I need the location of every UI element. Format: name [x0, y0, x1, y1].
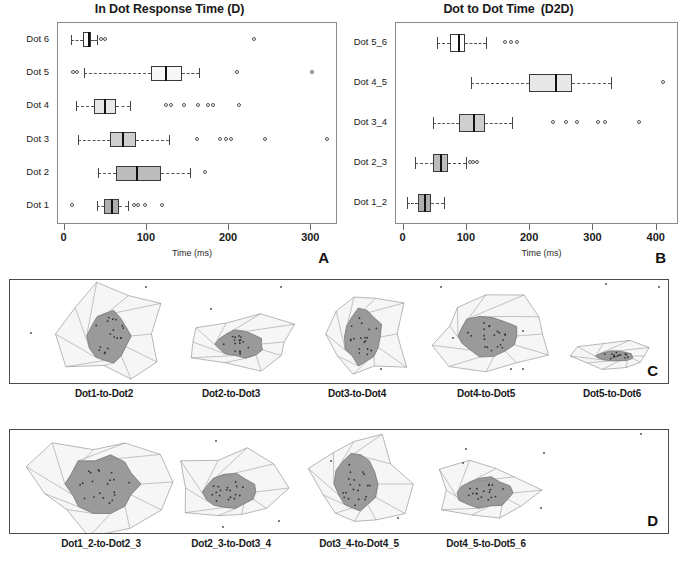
- data-point: [348, 478, 350, 480]
- outlier-point: [160, 203, 164, 207]
- data-point: [240, 336, 242, 338]
- median-line: [122, 132, 124, 147]
- data-point: [476, 493, 478, 495]
- data-point: [242, 341, 244, 343]
- outlier-point: [206, 103, 210, 107]
- data-point: [363, 473, 365, 475]
- data-point: [353, 489, 355, 491]
- shape-label: Dot2-to-Dot3: [202, 388, 260, 399]
- data-point: [354, 504, 356, 506]
- data-point: [216, 500, 218, 502]
- data-point: [239, 495, 241, 497]
- data-point: [483, 322, 485, 324]
- data-point: [219, 495, 221, 497]
- data-point: [215, 492, 217, 494]
- data-point: [365, 496, 367, 498]
- boxplot-row: In Dot Response Time (D) Dot 6Dot 5Dot 4…: [0, 0, 678, 272]
- data-point: [369, 485, 371, 487]
- panel-b-title-text: Dot to Dot Time: [443, 2, 534, 16]
- data-point: [495, 496, 497, 498]
- data-point: [342, 492, 344, 494]
- data-point: [228, 499, 230, 501]
- data-point: [213, 485, 215, 487]
- hull-cluster: [181, 448, 289, 516]
- data-point: [504, 334, 506, 336]
- whisker-low: [71, 40, 83, 41]
- whisker-low: [407, 203, 417, 204]
- outlier-point: [136, 203, 140, 207]
- shape-label: Dot4_5-to-Dot5_6: [446, 538, 526, 549]
- whisker-low: [415, 163, 433, 164]
- outlier-point: [596, 120, 600, 124]
- data-point: [498, 332, 500, 334]
- x-tick-label: 100: [457, 231, 475, 243]
- data-point: [109, 479, 111, 481]
- data-point: [365, 340, 367, 342]
- x-tick-label: 200: [219, 231, 237, 243]
- data-point: [616, 352, 618, 354]
- data-point: [368, 328, 370, 330]
- data-point: [351, 325, 353, 327]
- data-point: [497, 331, 499, 333]
- data-point: [348, 464, 350, 466]
- stray-point: [278, 520, 280, 522]
- data-point: [230, 496, 232, 498]
- y-tick-label: Dot 4: [26, 99, 49, 110]
- data-point: [497, 346, 499, 348]
- median-line: [88, 32, 90, 47]
- y-tick-label: Dot 3_4: [354, 116, 387, 127]
- data-point: [363, 341, 365, 343]
- outlier-point: [195, 137, 199, 141]
- data-point: [79, 484, 81, 486]
- data-point: [360, 337, 362, 339]
- data-point: [239, 351, 241, 353]
- data-point: [235, 481, 237, 483]
- stray-point: [330, 460, 332, 462]
- x-tick: [592, 224, 593, 230]
- data-point: [502, 488, 504, 490]
- data-point: [367, 348, 369, 350]
- data-point: [109, 333, 111, 335]
- shape-label: Dot3_4-to-Dot4_5: [319, 538, 399, 549]
- y-tick-label: Dot 1_2: [354, 196, 387, 207]
- data-point: [93, 496, 95, 498]
- data-point: [624, 353, 626, 355]
- data-point: [477, 498, 479, 500]
- outlier-point: [235, 70, 239, 74]
- panel-a-letter: A: [318, 249, 329, 266]
- data-point: [618, 354, 620, 356]
- x-tick-label: 100: [137, 231, 155, 243]
- whisker-high: [119, 206, 128, 207]
- data-point: [234, 498, 236, 500]
- panel-a-x-axis: Time (ms) 0100200300: [57, 224, 337, 254]
- data-point: [111, 499, 113, 501]
- data-point: [500, 344, 502, 346]
- outlier-point: [182, 103, 186, 107]
- data-point: [375, 328, 377, 330]
- outlier-point: [229, 137, 233, 141]
- outlier-point: [325, 137, 329, 141]
- x-tick-label: 0: [400, 231, 406, 243]
- stray-point: [640, 433, 642, 435]
- data-point: [486, 346, 488, 348]
- outlier-point: [475, 160, 479, 164]
- stray-point: [540, 507, 542, 509]
- stray-point: [465, 448, 467, 450]
- data-point: [489, 491, 491, 493]
- whisker-cap-low: [415, 157, 416, 169]
- stray-point: [543, 452, 545, 454]
- data-point: [113, 491, 115, 493]
- data-point: [239, 353, 241, 355]
- data-point: [350, 339, 352, 341]
- data-point: [483, 490, 485, 492]
- outlier-point: [509, 40, 513, 44]
- data-point: [227, 487, 229, 489]
- median-line: [440, 154, 442, 172]
- data-point: [104, 352, 106, 354]
- data-point: [358, 352, 360, 354]
- panel-c-labels: Dot1-to-Dot2Dot2-to-Dot3Dot3-to-Dot4Dot4…: [9, 388, 669, 408]
- data-point: [107, 348, 109, 350]
- whisker-cap-high: [199, 68, 200, 78]
- panel-d-letter: D: [647, 512, 658, 529]
- data-point: [468, 494, 470, 496]
